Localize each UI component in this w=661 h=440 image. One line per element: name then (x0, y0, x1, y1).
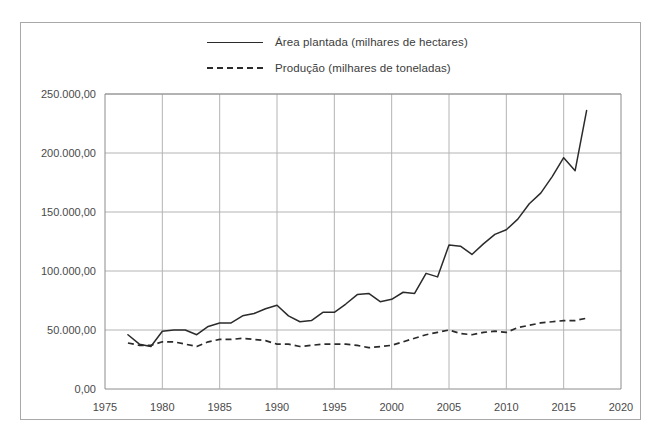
y-axis-tick-label: 100.000,00 (41, 265, 96, 277)
y-axis-tick-label: 0,00 (75, 383, 96, 395)
y-axis-tick-labels: 0,0050.000,00100.000,00150.000,00200.000… (41, 88, 96, 395)
y-axis-tick-label: 50.000,00 (47, 324, 96, 336)
x-axis-tick-label: 1995 (322, 401, 346, 413)
data-series (128, 111, 587, 348)
x-axis-tick-labels: 1975198019851990199520002005201020152020 (93, 401, 633, 413)
x-axis-tick-label: 1975 (93, 401, 117, 413)
chart-figure: Área plantada (milhares de hectares) Pro… (20, 22, 641, 420)
series-line-producao (128, 318, 587, 348)
x-axis-tick-label: 1990 (265, 401, 289, 413)
x-axis-tick-label: 2000 (379, 401, 403, 413)
x-axis-tick-label: 2010 (494, 401, 518, 413)
x-axis-tick-label: 1985 (207, 401, 231, 413)
gridlines (105, 94, 621, 389)
series-line-area-plantada (128, 111, 587, 347)
y-axis-tick-label: 250.000,00 (41, 88, 96, 100)
y-axis-tick-label: 150.000,00 (41, 206, 96, 218)
x-axis-tick-label: 2005 (437, 401, 461, 413)
x-axis-tick-label: 2015 (551, 401, 575, 413)
line-chart-svg: 0,0050.000,00100.000,00150.000,00200.000… (21, 23, 642, 421)
x-axis-tick-label: 2020 (609, 401, 633, 413)
y-axis-tick-label: 200.000,00 (41, 147, 96, 159)
plot-area: 0,0050.000,00100.000,00150.000,00200.000… (21, 23, 642, 421)
x-axis-tick-label: 1980 (150, 401, 174, 413)
